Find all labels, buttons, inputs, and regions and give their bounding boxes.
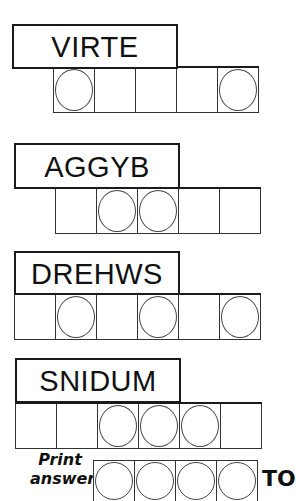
final-answer-cell[interactable] bbox=[94, 461, 135, 501]
final-answer-cells-row bbox=[93, 460, 258, 501]
letter-cell[interactable] bbox=[177, 68, 218, 112]
letter-cell[interactable] bbox=[179, 189, 220, 233]
letter-cell-circled[interactable] bbox=[56, 295, 97, 339]
letter-cell[interactable] bbox=[97, 295, 138, 339]
letter-cell-circled[interactable] bbox=[97, 189, 138, 233]
letter-cell[interactable] bbox=[136, 68, 177, 112]
letter-cell[interactable] bbox=[220, 189, 261, 233]
letter-cell-circled[interactable] bbox=[98, 404, 139, 448]
scrambled-word: DREHWS bbox=[31, 258, 163, 291]
letter-cell-circled[interactable] bbox=[139, 404, 180, 448]
letter-cell[interactable] bbox=[179, 295, 220, 339]
scrambled-word: VIRTE bbox=[51, 31, 138, 64]
print-answer-line2: answer bbox=[30, 469, 90, 488]
print-answer-line1: Print bbox=[30, 450, 90, 469]
scrambled-word-box: VIRTE bbox=[12, 24, 178, 69]
answer-cells-row bbox=[14, 293, 261, 340]
final-answer-cell[interactable] bbox=[176, 461, 217, 501]
scrambled-word-box: AGGYB bbox=[14, 143, 180, 189]
letter-cell-circled[interactable] bbox=[138, 189, 179, 233]
print-answer-label: Print answer bbox=[30, 450, 90, 488]
letter-cell[interactable] bbox=[57, 404, 98, 448]
letter-cell[interactable] bbox=[16, 404, 57, 448]
letter-cell[interactable] bbox=[95, 68, 136, 112]
letter-cell-circled[interactable] bbox=[138, 295, 179, 339]
final-answer-cell[interactable] bbox=[135, 461, 176, 501]
answer-cells-row bbox=[53, 66, 259, 113]
letter-cell[interactable] bbox=[221, 404, 262, 448]
letter-cell[interactable] bbox=[56, 189, 97, 233]
answer-cells-row bbox=[15, 402, 262, 449]
letter-cell-circled[interactable] bbox=[218, 68, 259, 112]
letter-cell-circled[interactable] bbox=[54, 68, 95, 112]
scrambled-word: SNIDUM bbox=[39, 365, 156, 398]
answer-cells-row bbox=[55, 187, 261, 234]
letter-cell-circled[interactable] bbox=[180, 404, 221, 448]
final-answer-cell[interactable] bbox=[217, 461, 258, 501]
answer-trailing-text: TO bbox=[262, 466, 296, 491]
letter-cell-circled[interactable] bbox=[220, 295, 261, 339]
letter-cell[interactable] bbox=[15, 295, 56, 339]
scrambled-word-box: SNIDUM bbox=[15, 358, 181, 403]
scrambled-word-box: DREHWS bbox=[14, 251, 180, 295]
scrambled-word: AGGYB bbox=[44, 151, 150, 184]
